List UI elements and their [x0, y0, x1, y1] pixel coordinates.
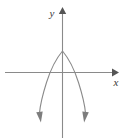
y-axis-label: y [49, 7, 55, 19]
y-axis-arrowhead [59, 7, 66, 14]
parabola-right-arrowhead [82, 112, 89, 123]
parabola-figure: y x [0, 0, 136, 140]
x-axis-label: x [113, 76, 119, 88]
parabola-left-arrowhead [36, 112, 43, 123]
graph-canvas: y x [0, 0, 136, 140]
